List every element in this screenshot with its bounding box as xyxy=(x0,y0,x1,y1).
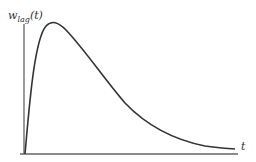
y-axis-label: wlag(t) xyxy=(8,9,43,24)
y-label-subscript: lag xyxy=(17,15,29,24)
lag-weight-diagram: wlag(t) t xyxy=(0,0,256,162)
lag-weight-curve xyxy=(25,23,235,154)
x-axis-label: t xyxy=(241,140,246,153)
y-label-suffix: (t) xyxy=(30,9,43,22)
